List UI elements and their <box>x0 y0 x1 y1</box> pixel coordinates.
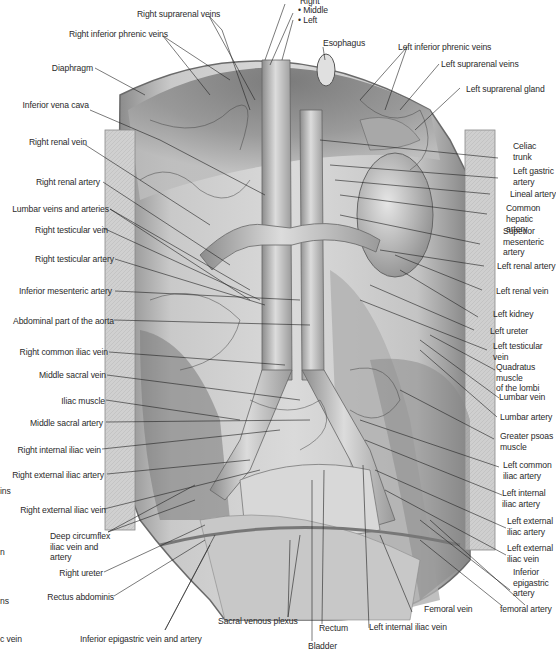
label-left-internal-iliac-artery: Left internal iliac artery <box>502 488 546 509</box>
esophagus-shape <box>317 54 335 86</box>
label-rectum: Rectum <box>319 623 348 634</box>
label-left-renal-artery: Left renal artery <box>497 261 556 272</box>
label-clipped-fragment: ins <box>0 486 11 497</box>
label-inferior-epigastric-artery: Inferior epigastric artery <box>513 567 549 599</box>
label-left-testicular-vein: Left testicular vein <box>493 341 543 362</box>
label-femoral-vein: Femoral vein <box>424 604 472 615</box>
label-sacral-venous-plexus: Sacral venous plexus <box>218 616 298 627</box>
label-left-external-iliac-vein: Left external iliac vein <box>507 543 553 564</box>
label-right-inferior-phrenic-veins: Right inferior phrenic veins <box>69 29 168 40</box>
label-right-internal-iliac-vein: Right internal iliac vein <box>18 445 101 456</box>
label-femoral-artery: femoral artery <box>500 604 552 615</box>
label-celiac-trunk: Celiac trunk <box>513 141 536 162</box>
label-superior-mesenteric-artery: Superior mesenteric artery <box>503 226 544 258</box>
label-right-testicular-artery: Right testicular artery <box>35 254 114 265</box>
label-left-internal-iliac-vein: Left internal iliac vein <box>369 622 447 633</box>
label-lumbar-artery: Lumbar artery <box>500 412 552 423</box>
label-right-common-iliac-vein: Right common iliac vein <box>20 347 108 358</box>
label-abdominal-aorta: Abdominal part of the aorta <box>13 316 114 327</box>
label-left-common-iliac-artery: Left common iliac artery <box>503 460 552 481</box>
label-diaphragm: Diaphragm <box>52 63 93 74</box>
label-right-external-iliac-vein: Right external iliac vein <box>20 505 106 516</box>
label-clipped-fragment: n <box>0 547 5 558</box>
label-right-renal-vein: Right renal vein <box>29 137 87 148</box>
label-bladder: Bladder <box>308 641 337 652</box>
label-middle-sacral-vein: Middle sacral vein <box>39 370 106 381</box>
label-right-suprarenal-veins: Right suprarenal veins <box>137 9 220 20</box>
label-inferior-vena-cava: Inferior vena cava <box>22 100 89 111</box>
anatomy-figure: Right suprarenal veins Right inferior ph… <box>0 0 556 655</box>
label-right-testicular-vein: Right testicular vein <box>35 225 108 236</box>
label-clipped-fragment: ns <box>0 596 9 607</box>
label-hepatic-vein-left: • Left <box>298 15 317 26</box>
ivc-shape <box>262 60 292 380</box>
label-left-renal-vein: Left renal vein <box>496 286 548 297</box>
label-right-external-iliac-artery: Right external iliac artery <box>12 470 104 481</box>
label-right-renal-artery: Right renal artery <box>36 177 100 188</box>
label-quadratus-lumborum: Quadratus muscle of the lombi <box>496 362 556 394</box>
label-inferior-mesenteric-artery: Inferior mesenteric artery <box>19 286 112 297</box>
label-left-kidney: Left kidney <box>493 309 533 320</box>
label-deep-circumflex-iliac: Deep circumflex iliac vein and artery <box>50 531 110 563</box>
label-middle-sacral-artery: Middle sacral artery <box>30 418 103 429</box>
aorta-shape <box>300 110 324 380</box>
label-left-suprarenal-veins: Left suprarenal veins <box>441 59 519 70</box>
label-left-inferior-phrenic-veins: Left inferior phrenic veins <box>398 42 491 53</box>
label-lumbar-veins-and-arteries: Lumbar veins and arteries <box>12 204 109 215</box>
label-iliac-muscle: Iliac muscle <box>61 396 105 407</box>
label-greater-psoas-muscle: Greater psoas muscle <box>500 431 553 452</box>
label-hepatic-vein-middle: • Middle <box>298 5 328 16</box>
label-left-suprarenal-gland: Left suprarenal gland <box>466 84 545 95</box>
label-clipped-fragment: c vein <box>0 634 22 645</box>
label-left-gastric-artery: Left gastric artery <box>513 166 554 187</box>
label-right-ureter: Right ureter <box>59 568 103 579</box>
label-left-ureter: Left ureter <box>490 326 528 337</box>
label-left-external-iliac-artery: Left external iliac artery <box>507 516 553 537</box>
left-kidney-shape <box>357 153 433 277</box>
label-rectus-abdominis: Rectus abdominis <box>47 592 114 603</box>
label-lumbar-vein: Lumbar vein <box>499 392 545 403</box>
label-lineal-artery: Lineal artery <box>510 189 556 200</box>
label-esophagus: Esophagus <box>323 38 365 49</box>
label-inferior-epigastric-vein-and-artery: Inferior epigastric vein and artery <box>80 634 202 645</box>
